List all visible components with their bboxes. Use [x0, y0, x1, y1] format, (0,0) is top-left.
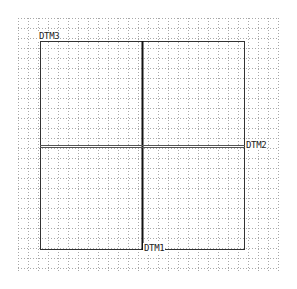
- sketch-canvas[interactable]: DTM3 DTM2 DTM1: [0, 0, 297, 289]
- datum-label-dtm3[interactable]: DTM3: [38, 31, 60, 41]
- datum-label-dtm2[interactable]: DTM2: [245, 140, 267, 150]
- datum-label-dtm1[interactable]: DTM1: [143, 243, 165, 253]
